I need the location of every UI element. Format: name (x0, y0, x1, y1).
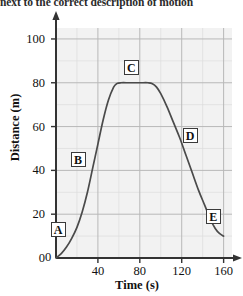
point-label-d[interactable]: D (183, 128, 198, 143)
y-tick-label: 100 (15, 33, 45, 45)
point-label-b[interactable]: B (71, 152, 86, 167)
point-label-c[interactable]: C (124, 60, 139, 75)
y-tick-label: 80 (15, 77, 45, 89)
point-label-a[interactable]: A (51, 222, 66, 237)
y-tick-label: 40 (15, 164, 45, 176)
distance-time-chart-figure: next to the correct description of motio… (0, 0, 243, 296)
x-tick-label: 120 (167, 265, 197, 277)
instruction-text: next to the correct description of motio… (0, 0, 243, 9)
y-tick-label: 60 (15, 121, 45, 133)
x-tick-label: 40 (83, 265, 113, 277)
x-axis-title: Time (s) (56, 278, 218, 293)
x-tick-label: 80 (125, 265, 155, 277)
point-label-e[interactable]: E (206, 209, 221, 224)
x-tick-label: 160 (209, 265, 239, 277)
x-tick-label: 0 (33, 251, 63, 263)
y-tick-label: 20 (15, 208, 45, 220)
